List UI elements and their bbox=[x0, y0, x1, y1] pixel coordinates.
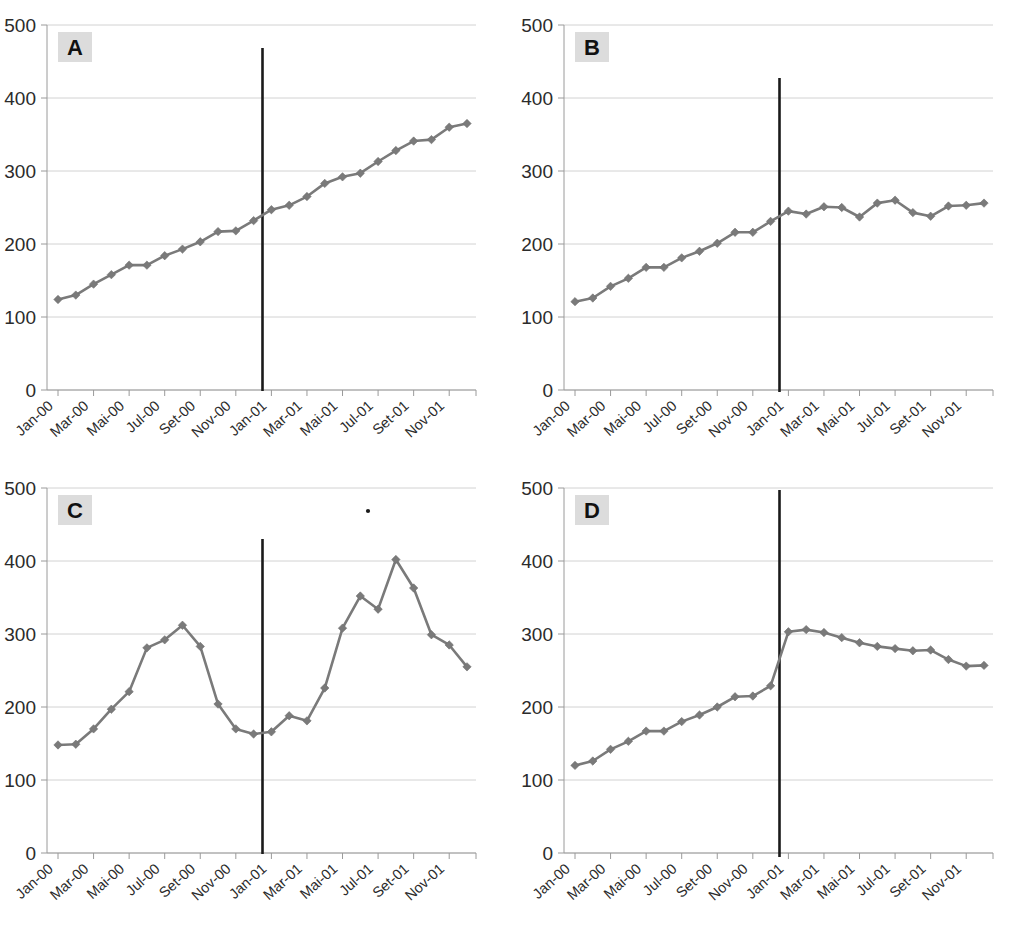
x-axis-tick-label: Nov-01 bbox=[402, 397, 447, 440]
data-point-marker bbox=[855, 639, 863, 647]
x-axis-tick-label: Jan-01 bbox=[743, 860, 787, 902]
x-axis-tick-label: Jul-01 bbox=[336, 397, 376, 435]
data-point-marker bbox=[891, 644, 899, 652]
x-axis-tick-label: Jan-00 bbox=[529, 397, 573, 439]
data-point-marker bbox=[980, 199, 988, 207]
x-axis-tick-label: Mai-01 bbox=[297, 860, 341, 902]
y-axis-tick-label: 100 bbox=[521, 307, 553, 328]
data-point-marker bbox=[571, 761, 579, 769]
y-axis-tick-label: 500 bbox=[521, 478, 553, 499]
data-point-marker bbox=[178, 245, 186, 253]
y-axis-tick-label: 300 bbox=[4, 624, 36, 645]
x-axis-tick-label: Mar-00 bbox=[47, 860, 92, 903]
chart-panel-b: 0100200300400500Jan-00Mar-00Mai-00Jul-00… bbox=[517, 0, 1033, 462]
y-axis-tick-label: 300 bbox=[521, 624, 553, 645]
y-axis-tick-label: 500 bbox=[521, 15, 553, 36]
chart-svg-a: 0100200300400500Jan-00Mar-00Mai-00Jul-00… bbox=[0, 0, 516, 462]
x-axis-tick-label: Mar-00 bbox=[564, 397, 609, 440]
x-axis-tick-label: Jan-00 bbox=[12, 397, 56, 439]
data-point-marker bbox=[962, 201, 970, 209]
x-axis-tick-label: Jul-01 bbox=[853, 860, 893, 898]
chart-panel-a: 0100200300400500Jan-00Mar-00Mai-00Jul-00… bbox=[0, 0, 516, 462]
x-axis-tick-label: Mai-00 bbox=[83, 860, 127, 902]
y-axis-tick-label: 200 bbox=[4, 697, 36, 718]
x-axis-tick-label: Jan-00 bbox=[12, 860, 56, 902]
data-point-marker bbox=[802, 210, 810, 218]
x-axis-tick-label: Mar-01 bbox=[260, 397, 305, 440]
x-axis-tick-label: Jul-00 bbox=[123, 397, 163, 435]
y-axis-tick-label: 400 bbox=[4, 551, 36, 572]
x-axis-tick-label: Jul-01 bbox=[853, 397, 893, 435]
panel-label-text: C bbox=[67, 498, 83, 523]
data-point-marker bbox=[249, 730, 257, 738]
data-point-marker bbox=[695, 711, 703, 719]
x-axis-tick-label: Mar-01 bbox=[777, 397, 822, 440]
data-point-marker bbox=[838, 633, 846, 641]
x-axis-tick-label: Jan-01 bbox=[226, 397, 270, 439]
data-point-marker bbox=[54, 741, 62, 749]
data-point-marker bbox=[571, 297, 579, 305]
y-axis-tick-label: 400 bbox=[4, 88, 36, 109]
chart-svg-d: 0100200300400500Jan-00Mar-00Mai-00Jul-00… bbox=[517, 463, 1033, 925]
data-point-marker bbox=[802, 625, 810, 633]
data-point-marker bbox=[784, 628, 792, 636]
y-axis-tick-label: 100 bbox=[4, 307, 36, 328]
x-axis-tick-label: Mar-00 bbox=[47, 397, 92, 440]
x-axis-tick-label: Mar-01 bbox=[777, 860, 822, 903]
chart-svg-b: 0100200300400500Jan-00Mar-00Mai-00Jul-00… bbox=[517, 0, 1033, 462]
y-axis-tick-label: 500 bbox=[4, 478, 36, 499]
data-point-marker bbox=[54, 295, 62, 303]
y-axis-tick-label: 100 bbox=[521, 770, 553, 791]
y-axis-tick-label: 0 bbox=[25, 843, 36, 864]
y-axis-tick-label: 300 bbox=[4, 161, 36, 182]
panel-label-text: B bbox=[584, 35, 600, 60]
y-axis-tick-label: 0 bbox=[542, 380, 553, 401]
y-axis-tick-label: 200 bbox=[4, 234, 36, 255]
data-point-marker bbox=[695, 247, 703, 255]
y-axis-tick-label: 100 bbox=[4, 770, 36, 791]
x-axis-tick-label: Jul-01 bbox=[336, 860, 376, 898]
x-axis-tick-label: Jan-01 bbox=[743, 397, 787, 439]
x-axis-tick-label: Jan-00 bbox=[529, 860, 573, 902]
chart-panel-d: 0100200300400500Jan-00Mar-00Mai-00Jul-00… bbox=[517, 463, 1033, 925]
y-axis-tick-label: 200 bbox=[521, 234, 553, 255]
x-axis-tick-label: Nov-01 bbox=[919, 397, 964, 440]
chart-panel-c: 0100200300400500Jan-00Mar-00Mai-00Jul-00… bbox=[0, 463, 516, 925]
x-axis-tick-label: Mai-00 bbox=[83, 397, 127, 439]
data-point-marker bbox=[873, 642, 881, 650]
data-point-marker bbox=[909, 647, 917, 655]
x-axis-tick-label: Mai-00 bbox=[600, 397, 644, 439]
scan-artifact-dot bbox=[366, 509, 370, 513]
x-axis-tick-label: Jul-00 bbox=[640, 860, 680, 898]
panel-label-text: D bbox=[584, 498, 600, 523]
chart-svg-c: 0100200300400500Jan-00Mar-00Mai-00Jul-00… bbox=[0, 463, 516, 925]
data-point-marker bbox=[338, 173, 346, 181]
y-axis-tick-label: 300 bbox=[521, 161, 553, 182]
x-axis-tick-label: Jul-00 bbox=[123, 860, 163, 898]
panel-label-text: A bbox=[67, 35, 83, 60]
x-axis-tick-label: Mai-01 bbox=[814, 860, 858, 902]
x-axis-tick-label: Mar-01 bbox=[260, 860, 305, 903]
x-axis-tick-label: Nov-01 bbox=[919, 860, 964, 903]
y-axis-tick-label: 0 bbox=[542, 843, 553, 864]
x-axis-tick-label: Nov-01 bbox=[402, 860, 447, 903]
x-axis-tick-label: Nov-00 bbox=[188, 860, 233, 903]
data-point-marker bbox=[285, 201, 293, 209]
data-point-marker bbox=[820, 203, 828, 211]
y-axis-tick-label: 0 bbox=[25, 380, 36, 401]
data-point-marker bbox=[143, 644, 151, 652]
x-axis-tick-label: Jul-00 bbox=[640, 397, 680, 435]
y-axis-tick-label: 200 bbox=[521, 697, 553, 718]
x-axis-tick-label: Nov-00 bbox=[705, 860, 750, 903]
y-axis-tick-label: 400 bbox=[521, 88, 553, 109]
x-axis-tick-label: Mar-00 bbox=[564, 860, 609, 903]
x-axis-tick-label: Mai-01 bbox=[814, 397, 858, 439]
data-point-marker bbox=[962, 662, 970, 670]
y-axis-tick-label: 500 bbox=[4, 15, 36, 36]
data-point-marker bbox=[820, 628, 828, 636]
x-axis-tick-label: Nov-00 bbox=[705, 397, 750, 440]
x-axis-tick-label: Nov-00 bbox=[188, 397, 233, 440]
data-point-marker bbox=[463, 119, 471, 127]
x-axis-tick-label: Mai-01 bbox=[297, 397, 341, 439]
data-point-marker bbox=[980, 661, 988, 669]
